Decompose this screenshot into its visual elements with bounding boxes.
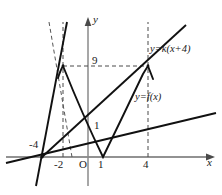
parabola-f <box>58 66 153 157</box>
math-figure: 9 1 -4 -2 O 1 4 x y y=k(x+4) y=f(x) <box>0 0 222 195</box>
x-tick-label-4: 4 <box>143 159 149 170</box>
curve-label-line-k: y=k(x+4) <box>150 44 190 55</box>
x-tick-label-neg2: -2 <box>54 159 63 170</box>
x-axis-label: x <box>207 157 212 168</box>
x-tick-label-1: 1 <box>98 159 104 170</box>
curve-label-parabola: y=f(x) <box>135 92 161 103</box>
origin-label: O <box>79 159 87 170</box>
dashed-slant-line <box>49 22 72 157</box>
x-tick-label-neg4: -4 <box>29 139 38 150</box>
y-tick-label-9: 9 <box>92 55 98 66</box>
y-tick-label-1: 1 <box>94 120 100 131</box>
graph-canvas <box>0 0 222 195</box>
y-axis-label: y <box>93 14 98 25</box>
